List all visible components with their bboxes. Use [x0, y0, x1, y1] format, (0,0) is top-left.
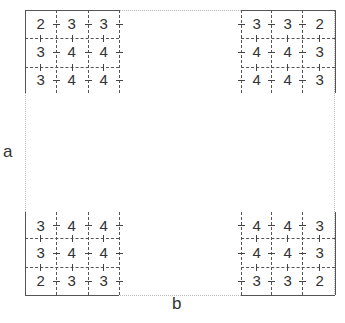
- edge-tick: [85, 80, 92, 81]
- edge-tick: [287, 64, 288, 71]
- edge-tick: [268, 52, 275, 53]
- edge-tick: [319, 64, 320, 71]
- grid-cell: 3: [304, 239, 335, 267]
- edge-tick: [319, 264, 320, 271]
- edge-tick: [85, 253, 92, 254]
- edge-tick: [238, 24, 245, 25]
- edge-tick: [238, 52, 245, 53]
- grid-border-bottom: [25, 295, 119, 296]
- edge-tick: [319, 35, 320, 42]
- grid-cell: 2: [304, 10, 335, 38]
- edge-tick: [103, 64, 104, 71]
- grid-bottom-right: 4 4 3 4 4 3 3 3 2: [241, 212, 335, 295]
- grid-cell: 4: [56, 38, 87, 66]
- edge-tick: [116, 253, 123, 254]
- edge-tick: [238, 281, 245, 282]
- edge-tick: [103, 35, 104, 42]
- edge-tick: [103, 264, 104, 271]
- edge-tick: [268, 281, 275, 282]
- grid-cell: 2: [25, 10, 56, 38]
- edge-tick: [85, 225, 92, 226]
- edge-tick: [299, 24, 306, 25]
- edge-tick: [238, 80, 245, 81]
- edge-tick: [72, 235, 73, 242]
- grid-top-left: 2 3 3 3 4 4 3 4 4: [25, 10, 119, 93]
- grid-cell: 2: [304, 267, 335, 295]
- edge-tick: [299, 80, 306, 81]
- grid-cell: 3: [56, 267, 87, 295]
- grid-cell: 4: [88, 239, 119, 267]
- edge-tick: [238, 225, 245, 226]
- edge-tick: [53, 80, 60, 81]
- edge-tick: [287, 264, 288, 271]
- edge-tick: [53, 281, 60, 282]
- edge-tick: [268, 80, 275, 81]
- edge-tick: [53, 24, 60, 25]
- grid-cell: 3: [25, 38, 56, 66]
- edge-tick: [40, 35, 41, 42]
- edge-tick: [268, 225, 275, 226]
- edge-tick: [287, 235, 288, 242]
- edge-tick: [40, 235, 41, 242]
- edge-tick: [116, 281, 123, 282]
- grid-cell: 4: [88, 38, 119, 66]
- side-label-a: a: [3, 142, 12, 162]
- edge-tick: [72, 64, 73, 71]
- edge-tick: [85, 24, 92, 25]
- grid-bottom-left: 3 4 4 3 4 4 2 3 3: [25, 212, 119, 295]
- edge-tick: [116, 225, 123, 226]
- grid-cell: 3: [56, 10, 87, 38]
- grid-border-bottom: [241, 295, 335, 296]
- edge-tick: [299, 253, 306, 254]
- grid-cell: 4: [56, 239, 87, 267]
- edge-tick: [116, 24, 123, 25]
- edge-tick: [287, 35, 288, 42]
- edge-tick: [53, 225, 60, 226]
- edge-tick: [238, 253, 245, 254]
- edge-tick: [40, 64, 41, 71]
- edge-tick: [85, 281, 92, 282]
- edge-tick: [85, 52, 92, 53]
- edge-tick: [256, 264, 257, 271]
- edge-tick: [299, 225, 306, 226]
- edge-tick: [116, 52, 123, 53]
- edge-tick: [299, 52, 306, 53]
- grid-cell: 3: [25, 239, 56, 267]
- edge-tick: [53, 52, 60, 53]
- grid-cell: 3: [88, 10, 119, 38]
- edge-tick: [103, 235, 104, 242]
- edge-tick: [72, 264, 73, 271]
- edge-tick: [268, 253, 275, 254]
- edge-tick: [256, 235, 257, 242]
- side-label-b: b: [172, 294, 181, 314]
- edge-tick: [319, 235, 320, 242]
- grid-cell: 3: [304, 38, 335, 66]
- edge-tick: [40, 264, 41, 271]
- edge-tick: [299, 281, 306, 282]
- edge-tick: [256, 64, 257, 71]
- edge-tick: [72, 35, 73, 42]
- grid-cell: 2: [25, 267, 56, 295]
- edge-tick: [268, 24, 275, 25]
- edge-tick: [256, 35, 257, 42]
- edge-tick: [116, 80, 123, 81]
- edge-tick: [53, 253, 60, 254]
- grid-top-right: 3 3 2 4 4 3 4 4 3: [241, 10, 335, 93]
- grid-cell: 3: [88, 267, 119, 295]
